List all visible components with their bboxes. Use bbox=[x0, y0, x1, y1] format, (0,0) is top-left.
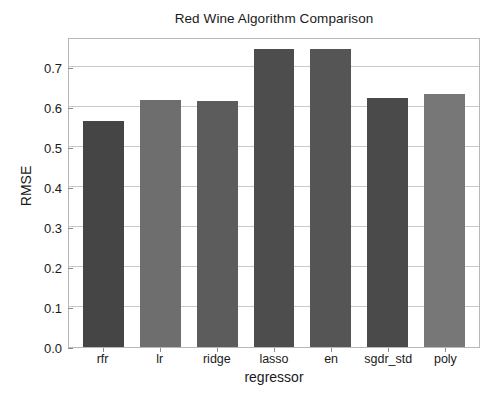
bar-slot bbox=[416, 39, 473, 347]
y-tick-label: 0.5 bbox=[28, 141, 62, 156]
y-tick-mark bbox=[68, 68, 73, 69]
x-tick-mark bbox=[160, 348, 161, 352]
y-tick-mark bbox=[68, 228, 73, 229]
y-tick-label: 0.3 bbox=[28, 221, 62, 236]
y-tick-label: 0.0 bbox=[28, 341, 62, 356]
x-tick-mark bbox=[445, 348, 446, 352]
x-tick-label-ridge: ridge bbox=[188, 352, 245, 366]
x-tick-label-rfr: rfr bbox=[74, 352, 131, 366]
bar-slot bbox=[359, 39, 416, 347]
y-tick-label: 0.2 bbox=[28, 261, 62, 276]
x-tick-mark bbox=[331, 348, 332, 352]
bar-lasso[interactable] bbox=[254, 49, 295, 347]
bar-slot bbox=[302, 39, 359, 347]
bar-slot bbox=[246, 39, 303, 347]
chart-figure: Red Wine Algorithm Comparison 0.00.10.20… bbox=[0, 0, 500, 411]
bar-lr[interactable] bbox=[140, 100, 181, 347]
y-tick-mark bbox=[68, 348, 73, 349]
plot-area bbox=[68, 38, 480, 348]
y-tick-mark bbox=[68, 188, 73, 189]
x-tick-label-lr: lr bbox=[131, 352, 188, 366]
x-tick-label-poly: poly bbox=[417, 352, 474, 366]
bar-series bbox=[69, 39, 479, 347]
x-tick-mark bbox=[388, 348, 389, 352]
y-tick-mark bbox=[68, 268, 73, 269]
bar-sgdr_std[interactable] bbox=[367, 98, 408, 347]
x-tick-label-en: en bbox=[303, 352, 360, 366]
y-tick-mark bbox=[68, 148, 73, 149]
x-tick-mark bbox=[103, 348, 104, 352]
bar-poly[interactable] bbox=[424, 94, 465, 347]
x-axis-ticks: rfrlrridgelassoensgdr_stdpoly bbox=[68, 352, 480, 366]
y-tick-label: 0.7 bbox=[28, 61, 62, 76]
y-tick-mark bbox=[68, 308, 73, 309]
x-tick-mark bbox=[274, 348, 275, 352]
y-axis-label: RMSE bbox=[18, 156, 34, 216]
y-tick-label: 0.1 bbox=[28, 301, 62, 316]
x-tick-label-lasso: lasso bbox=[245, 352, 302, 366]
x-tick-mark bbox=[217, 348, 218, 352]
y-tick-label: 0.6 bbox=[28, 101, 62, 116]
bar-slot bbox=[189, 39, 246, 347]
bar-slot bbox=[132, 39, 189, 347]
bar-slot bbox=[75, 39, 132, 347]
x-axis-label: regressor bbox=[68, 369, 480, 385]
bar-en[interactable] bbox=[310, 49, 351, 347]
chart-title: Red Wine Algorithm Comparison bbox=[68, 11, 480, 26]
bar-rfr[interactable] bbox=[83, 121, 124, 347]
bar-ridge[interactable] bbox=[197, 101, 238, 347]
x-tick-label-sgdr_std: sgdr_std bbox=[360, 352, 417, 366]
y-tick-mark bbox=[68, 108, 73, 109]
